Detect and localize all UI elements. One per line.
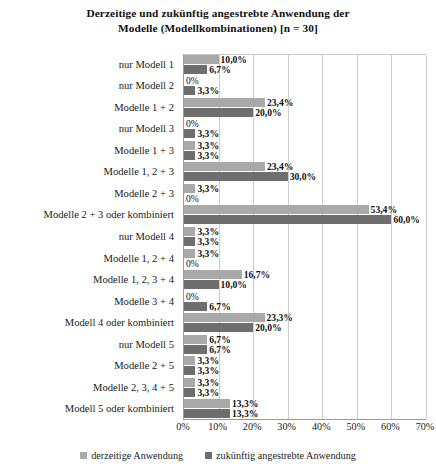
bar-line: 60,0%: [184, 215, 420, 224]
bar-value-label: 60,0%: [391, 215, 419, 224]
bar-future: [184, 366, 195, 375]
bar-group: 23,4%30,0%: [184, 160, 436, 184]
bar-value-label: 23,3%: [265, 313, 293, 322]
category-label: Modelle 2 + 3: [0, 182, 178, 206]
bar-future: [184, 86, 195, 95]
bar-value-label: 53,4%: [369, 205, 397, 214]
bar-value-label: 10,0%: [219, 55, 247, 64]
category-label: nur Modell 5: [0, 333, 178, 357]
bar-line: 3,3%: [184, 151, 219, 160]
bar-future: [184, 237, 195, 246]
bar-future: [184, 302, 207, 311]
bar-value-label: 20,0%: [253, 323, 281, 332]
bar-chart: Derzeitige und zukünftig angestrebte Anw…: [0, 0, 436, 467]
category-label: nur Modell 1: [0, 53, 178, 77]
bar-line: 0%: [184, 292, 199, 301]
bar-value-label: 3,3%: [195, 129, 219, 138]
bar-group: 3,3%3,3%: [184, 354, 436, 378]
bar-value-label: 3,3%: [195, 86, 219, 95]
chart-row: Modelle 1 + 223,4%20,0%: [0, 96, 436, 120]
bar-group: 16,7%10,0%: [184, 268, 436, 292]
chart-row: nur Modell 20%3,3%: [0, 74, 436, 98]
category-label: Modelle 2, 3, 4 + 5: [0, 376, 178, 400]
bar-current: [184, 141, 195, 150]
bar-line: 3,3%: [184, 184, 219, 193]
chart-row: Modell 5 oder kombiniert13,3%13,3%: [0, 397, 436, 421]
bar-line: 0%: [184, 76, 199, 85]
bar-value-label: 0%: [184, 292, 199, 301]
bar-current: [184, 205, 369, 214]
category-label: nur Modell 3: [0, 117, 178, 141]
category-label: Modell 5 oder kombiniert: [0, 397, 178, 421]
bar-line: 3,3%: [184, 227, 219, 236]
bar-group: 3,3%0%: [184, 247, 436, 271]
chart-row: Modell 4 oder kombiniert23,3%20,0%: [0, 311, 436, 335]
x-axis-tick-label: 20%: [243, 421, 262, 432]
bar-line: 3,3%: [184, 378, 219, 387]
bar-value-label: 16,7%: [242, 270, 270, 279]
bar-value-label: 3,3%: [195, 366, 219, 375]
x-axis-tick-label: 40%: [312, 421, 331, 432]
bar-group: 0%3,3%: [184, 74, 436, 98]
chart-title-line-2: Modelle (Modellkombinationen) [n = 30]: [28, 21, 408, 36]
bar-line: 6,7%: [184, 302, 231, 311]
bar-value-label: 30,0%: [288, 172, 316, 181]
category-label: Modelle 2 + 3 oder kombiniert: [0, 203, 178, 227]
bar-line: 3,3%: [184, 356, 219, 365]
bar-group: 13,3%13,3%: [184, 397, 436, 421]
bar-value-label: 0%: [184, 259, 199, 268]
bar-current: [184, 249, 195, 258]
bar-future: [184, 215, 391, 224]
bar-value-label: 6,7%: [207, 65, 231, 74]
bar-line: 3,3%: [184, 366, 219, 375]
chart-row: Modelle 3 + 40%6,7%: [0, 290, 436, 314]
bar-value-label: 3,3%: [195, 151, 219, 160]
chart-row: Modelle 2 + 53,3%3,3%: [0, 354, 436, 378]
chart-row: Modelle 2 + 33,3%0%: [0, 182, 436, 206]
bar-current: [184, 399, 230, 408]
category-label: Modelle 1, 2, 3 + 4: [0, 268, 178, 292]
bar-future: [184, 65, 207, 74]
bar-group: 0%3,3%: [184, 117, 436, 141]
bar-group: 23,4%20,0%: [184, 96, 436, 120]
legend-swatch-icon-current: [80, 452, 87, 459]
chart-row: nur Modell 30%3,3%: [0, 117, 436, 141]
chart-title-line-1: Derzeitige und zukünftig angestrebte Anw…: [28, 6, 408, 21]
bar-line: 6,7%: [184, 345, 231, 354]
x-axis-tick-label: 50%: [347, 421, 366, 432]
bar-value-label: 3,3%: [195, 388, 219, 397]
bar-current: [184, 313, 265, 322]
bar-value-label: 20,0%: [253, 108, 281, 117]
bar-group: 0%6,7%: [184, 290, 436, 314]
bar-current: [184, 55, 219, 64]
chart-title: Derzeitige und zukünftig angestrebte Anw…: [28, 6, 408, 36]
bar-line: 0%: [184, 194, 199, 203]
bar-value-label: 13,3%: [230, 409, 258, 418]
x-axis-tick-label: 10%: [208, 421, 227, 432]
bar-value-label: 6,7%: [207, 335, 231, 344]
category-label: nur Modell 2: [0, 74, 178, 98]
chart-row: Modelle 2, 3, 4 + 53,3%3,3%: [0, 376, 436, 400]
x-axis-tick-label: 0%: [176, 421, 190, 432]
legend-item-future: zukünftig angestrebte Anwendung: [205, 450, 356, 461]
legend-swatch-icon-future: [205, 452, 212, 459]
bar-current: [184, 335, 207, 344]
bar-group: 3,3%3,3%: [184, 225, 436, 249]
category-label: Modelle 1, 2 + 4: [0, 247, 178, 271]
x-axis: 0%10%20%30%40%50%60%70%: [183, 421, 426, 437]
bar-group: 3,3%3,3%: [184, 139, 436, 163]
category-label: Modell 4 oder kombiniert: [0, 311, 178, 335]
bar-value-label: 3,3%: [195, 378, 219, 387]
bar-line: 3,3%: [184, 237, 219, 246]
bar-group: 53,4%60,0%: [184, 203, 436, 227]
x-axis-tick-label: 70%: [416, 421, 435, 432]
chart-row: Modelle 1 + 33,3%3,3%: [0, 139, 436, 163]
bar-value-label: 0%: [184, 119, 199, 128]
bar-value-label: 3,3%: [195, 184, 219, 193]
bar-line: 20,0%: [184, 108, 282, 117]
bar-line: 10,0%: [184, 55, 247, 64]
bar-future: [184, 388, 195, 397]
bar-line: 0%: [184, 259, 199, 268]
chart-row: Modelle 1, 2 + 43,3%0%: [0, 247, 436, 271]
bar-line: 23,4%: [184, 98, 293, 107]
